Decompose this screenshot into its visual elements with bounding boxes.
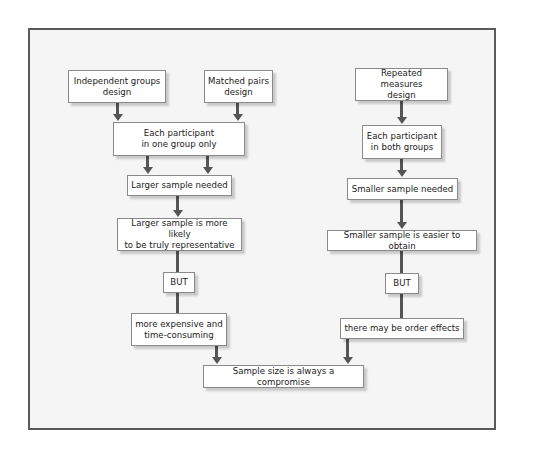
node-but-left: BUT [163, 272, 195, 293]
node-larger-sample-needed: Larger sample needed [127, 175, 232, 196]
node-more-expensive: more expensive and time-consuming [131, 313, 227, 346]
node-repeated-measures-design: Repeated measures design [355, 68, 448, 101]
arrow-head-icon [397, 222, 407, 229]
arrow-head-icon [212, 357, 222, 364]
node-sample-size-compromise: Sample size is always a compromise [203, 365, 364, 388]
connector-line [346, 338, 349, 358]
node-larger-sample-representative: Larger sample is more likely to be truly… [117, 218, 242, 251]
node-order-effects: there may be order effects [340, 318, 464, 339]
node-smaller-sample-needed: Smaller sample needed [347, 178, 458, 200]
arrow-head-icon [143, 167, 153, 174]
arrow-head-icon [397, 170, 407, 177]
connector-line [400, 199, 403, 223]
node-each-participant-one-group: Each participant in one group only [113, 122, 245, 156]
arrow-head-icon [173, 210, 183, 217]
node-each-participant-both-groups: Each participant in both groups [362, 125, 442, 159]
node-smaller-sample-easier: Smaller sample is easier to obtain [327, 230, 477, 251]
node-matched-pairs-design: Matched pairs design [204, 70, 273, 103]
arrow-head-icon [233, 114, 243, 121]
arrow-head-icon [113, 114, 123, 121]
node-but-right: BUT [385, 273, 419, 294]
arrow-head-icon [397, 117, 407, 124]
connector-line [176, 195, 179, 211]
connector-line [400, 100, 403, 118]
arrow-head-icon [343, 357, 353, 364]
node-independent-groups-design: Independent groups design [68, 70, 166, 103]
arrow-head-icon [203, 167, 213, 174]
